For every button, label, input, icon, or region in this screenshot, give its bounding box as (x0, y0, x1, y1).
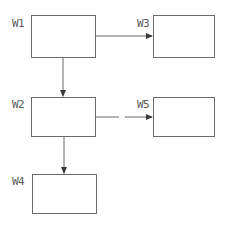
node-box-w1 (31, 15, 96, 58)
node-box-w5 (153, 97, 215, 137)
node-label-w2: W2 (12, 99, 24, 110)
node-box-w2 (31, 97, 96, 137)
node-box-w4 (32, 174, 97, 214)
node-label-w1: W1 (12, 18, 24, 29)
workflow-diagram: W1 W3 W2 W5 W4 (0, 0, 226, 228)
node-label-w4: W4 (12, 176, 24, 187)
node-label-w3: W3 (137, 18, 149, 29)
node-box-w3 (153, 15, 215, 58)
node-label-w5: W5 (137, 99, 149, 110)
